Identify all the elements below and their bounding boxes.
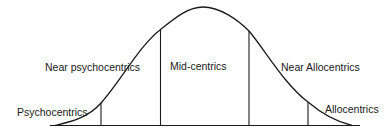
label-near-allocentrics: Near Allocentrics (281, 62, 360, 73)
label-near-psychocentrics: Near psychocentrics (45, 62, 140, 73)
label-mid-centrics: Mid-centrics (170, 61, 227, 72)
label-psychocentrics: Psychocentrics (17, 107, 88, 118)
label-allocentrics: Allocentrics (325, 104, 379, 115)
